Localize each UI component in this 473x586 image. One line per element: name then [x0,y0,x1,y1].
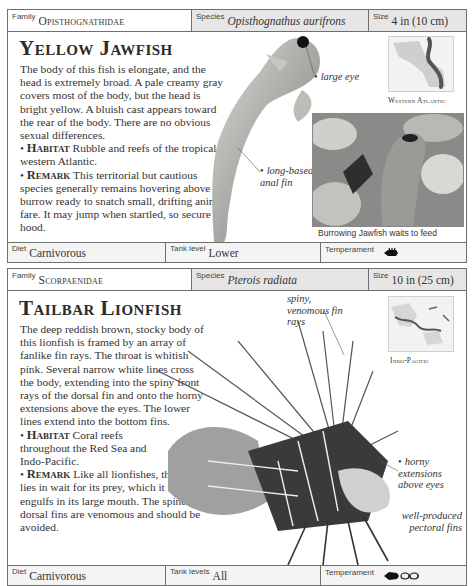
lionfish-header: Family Scorpaenidae Species Pterois radi… [7,268,467,291]
callout-large-eye: large eye [314,71,359,83]
size-cell: Size 4 in (10 cm) [369,10,466,31]
lionfish-card: Tailbar Lionfish The deep reddish brown,… [7,290,467,566]
callout-fin-rays: spiny, venomous fin rays [287,293,349,328]
map-label: Indo-Pacific [390,356,429,365]
species-value: Pterois radiata [227,274,297,286]
size-label: Size [373,12,389,21]
temperament-label: Temperament [325,568,374,577]
size-label: Size [373,271,389,280]
photo-caption: Burrowing Jawfish waits to feed [318,228,437,238]
diet-cell: Diet Carnivorous [8,566,166,585]
species-cell: Species Pterois radiata [192,269,369,290]
diet-label: Diet [12,567,26,576]
temperament-cell: Temperament [321,243,466,262]
remark-label: Remark [27,168,71,182]
family-label: Family [12,12,36,21]
family-cell: Family Opisthognathidae [8,10,192,31]
jawfish-illustration [148,32,328,242]
range-map [388,296,454,352]
jawfish-photo [312,113,464,227]
habitat-label: Habitat [27,141,70,155]
species-label: Species [196,12,224,21]
tank-value: Lower [209,247,239,259]
family-label: Family [12,271,36,280]
species-value: Opisthognathus aurifrons [227,15,345,27]
callout-pectoral-fins: well-produced pectoral fins [392,510,462,533]
species-label: Species [196,271,224,280]
temperament-cell: Temperament [321,566,466,585]
jawfish-card: Yellow Jawfish The body of this fish is … [7,31,467,243]
habitat-label: Habitat [27,428,70,442]
jawfish-footer: Diet Carnivorous Tank level Lower Temper… [7,242,467,263]
map-label: Western Atlantic [388,96,445,105]
tank-label: Tank levels [170,567,210,576]
diet-value: Carnivorous [29,247,86,259]
tank-level-cell: Tank level Lower [166,243,321,262]
predator-eats-small-fish-icon [383,570,419,582]
range-map [388,36,454,92]
size-value: 10 in (25 cm) [392,274,454,286]
size-cell: Size 10 in (25 cm) [369,269,466,290]
diet-value: Carnivorous [29,570,86,582]
family-cell: Family Scorpaenidae [8,269,192,290]
diet-label: Diet [12,244,26,253]
jawfish-header: Family Opisthognathidae Species Opisthog… [7,9,467,32]
callout-anal-fin: long-based anal fin [260,165,320,188]
remark-label: Remark [27,467,71,481]
callout-horny-extensions: horny extensions above eyes [398,456,458,491]
lionfish-footer: Diet Carnivorous Tank levels All Tempera… [7,565,467,586]
size-value: 4 in (10 cm) [392,15,449,27]
tank-level-cell: Tank levels All [166,566,321,585]
species-cell: Species Opisthognathus aurifrons [192,10,369,31]
lionfish-illustration [148,311,403,565]
tank-value: All [213,570,228,582]
diet-cell: Diet Carnivorous [8,243,166,262]
family-value: Opisthognathidae [39,15,125,27]
tank-label: Tank level [170,244,206,253]
family-value: Scorpaenidae [39,274,104,286]
temperament-label: Temperament [325,245,374,254]
aggressive-fish-icon [383,247,399,259]
